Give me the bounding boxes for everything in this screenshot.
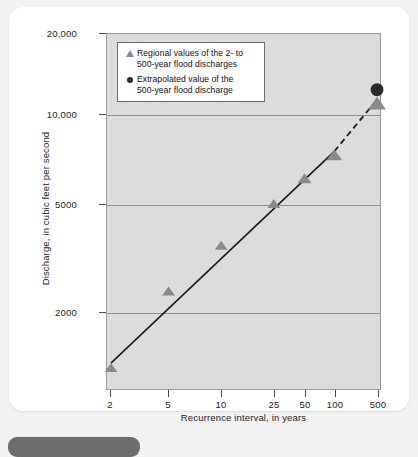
legend-label-line1: Regional values of the 2- to bbox=[137, 48, 243, 58]
bottom-caption-bar bbox=[8, 437, 140, 457]
data-point-triangle-2 bbox=[105, 363, 118, 372]
y-tick-mark-10000 bbox=[99, 114, 106, 115]
y-tick-label-20000: 20,000 bbox=[47, 28, 77, 39]
legend-label-line2: 500-year flood discharges bbox=[137, 59, 237, 69]
chart-legend: Regional values of the 2- to 500-year fl… bbox=[117, 42, 265, 102]
y-tick-label-2000: 2000 bbox=[55, 307, 77, 318]
x-tick-mark-100 bbox=[335, 390, 336, 397]
x-tick-label-5: 5 bbox=[165, 399, 170, 410]
flood-frequency-chart: 20,000 10,000 5000 2000 Discharge, in cu… bbox=[9, 7, 409, 411]
data-point-triangle-100 bbox=[326, 149, 342, 160]
x-tick-label-25: 25 bbox=[269, 399, 280, 410]
legend-item-extrapolated-value: Extrapolated value of the 500-year flood… bbox=[123, 74, 258, 95]
x-tick-mark-25 bbox=[274, 390, 275, 397]
x-tick-mark-5 bbox=[168, 390, 169, 397]
legend-label-extrapolated-value: Extrapolated value of the 500-year flood… bbox=[137, 74, 233, 95]
x-tick-label-100: 100 bbox=[327, 399, 343, 410]
x-axis-title: Recurrence interval, in years bbox=[106, 412, 381, 423]
x-tick-label-50: 50 bbox=[300, 399, 311, 410]
y-tick-label-10000: 10,000 bbox=[47, 109, 77, 120]
x-tick-mark-10 bbox=[221, 390, 222, 397]
y-tick-mark-2000 bbox=[99, 312, 106, 313]
y-tick-mark-5000 bbox=[99, 204, 106, 205]
x-tick-label-2: 2 bbox=[107, 399, 112, 410]
data-point-triangle-5 bbox=[162, 287, 175, 296]
data-point-circle-extrapolated bbox=[371, 83, 384, 96]
legend-label-line2: 500-year flood discharge bbox=[137, 85, 233, 95]
data-point-triangle-500 bbox=[368, 97, 386, 110]
x-tick-label-500: 500 bbox=[370, 399, 386, 410]
legend-item-regional-values: Regional values of the 2- to 500-year fl… bbox=[123, 48, 258, 69]
y-axis-title: Discharge, in cubic feet per second bbox=[40, 109, 51, 309]
x-tick-mark-2 bbox=[110, 390, 111, 397]
x-tick-mark-500 bbox=[378, 390, 379, 397]
legend-label-regional-values: Regional values of the 2- to 500-year fl… bbox=[137, 48, 243, 69]
chart-card: 20,000 10,000 5000 2000 Discharge, in cu… bbox=[9, 7, 409, 411]
legend-label-line1: Extrapolated value of the bbox=[137, 74, 233, 84]
x-tick-mark-50 bbox=[305, 390, 306, 397]
data-point-triangle-10 bbox=[215, 241, 228, 250]
y-tick-label-5000: 5000 bbox=[55, 199, 77, 210]
triangle-marker-icon bbox=[123, 48, 137, 57]
x-tick-label-10: 10 bbox=[216, 399, 227, 410]
y-tick-mark-20000 bbox=[99, 33, 106, 34]
circle-marker-icon bbox=[123, 74, 137, 83]
